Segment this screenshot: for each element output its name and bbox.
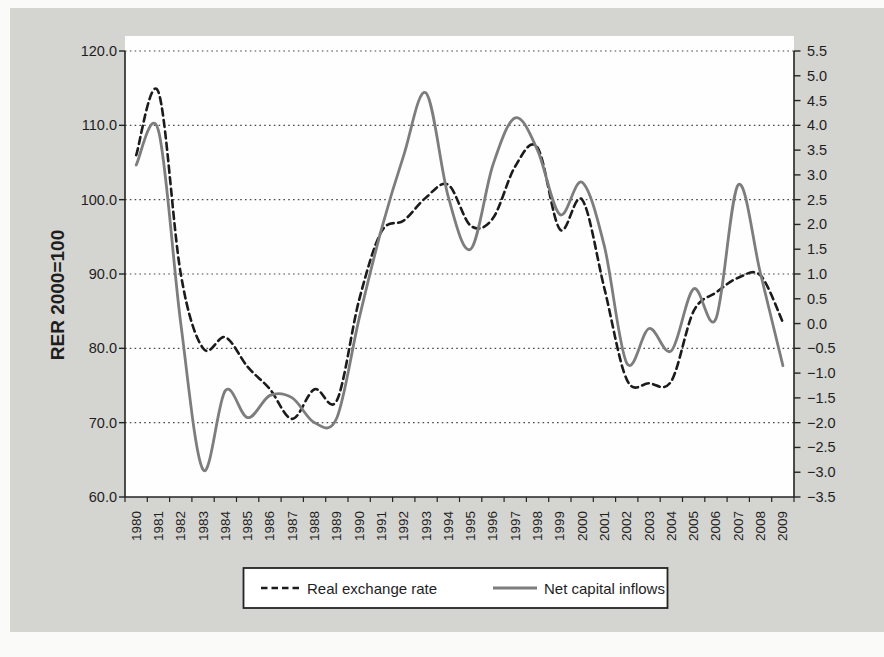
x-axis-tick-label: 2007 — [731, 511, 746, 541]
right-axis-tick-label: 2.0 — [807, 216, 827, 232]
x-axis-tick-label: 1997 — [508, 511, 523, 541]
x-axis-tick-label: 2004 — [664, 510, 679, 541]
x-axis-tick-label: 1986 — [262, 511, 277, 541]
right-axis-tick-label: 5.0 — [807, 68, 827, 84]
left-axis-tick-label: 90.0 — [89, 266, 117, 282]
x-axis-tick-label: 2006 — [708, 511, 723, 541]
x-axis-tick-label: 2009 — [775, 511, 790, 541]
x-axis-tick-label: 1990 — [352, 511, 367, 541]
right-axis-tick-label: −3.0 — [807, 464, 836, 480]
left-axis-title: RER 2000=100 — [47, 230, 68, 360]
right-axis-tick-label: −2.5 — [807, 439, 836, 455]
right-axis-tick-label: 3.5 — [807, 142, 827, 158]
x-axis-tick-label: 1992 — [396, 511, 411, 541]
x-axis-tick-label: 2000 — [575, 511, 590, 541]
x-axis-tick-label: 1983 — [196, 511, 211, 541]
left-axis-tick-label: 110.0 — [82, 117, 117, 133]
right-axis-tick-label: −3.5 — [807, 489, 836, 505]
right-axis-tick-label: −1.0 — [807, 365, 836, 381]
left-axis-tick-label: 70.0 — [89, 415, 117, 431]
x-axis-tick-label: 1988 — [307, 511, 322, 541]
right-axis-tick-label: −1.5 — [807, 390, 836, 406]
x-axis-tick-label: 1993 — [419, 511, 434, 541]
right-axis-tick-label: −0.5 — [807, 340, 836, 356]
x-axis-tick-label: 1987 — [285, 511, 300, 541]
x-axis-tick-label: 1981 — [151, 511, 166, 541]
right-axis-tick-label: 0.5 — [807, 291, 827, 307]
right-axis-tick-label: 0.0 — [807, 316, 827, 332]
right-axis-tick-label: 1.5 — [807, 241, 827, 257]
legend-label-net-capital-inflows: Net capital inflows — [544, 580, 665, 597]
chart-svg: 120.0110.0100.090.080.070.060.05.55.04.5… — [0, 0, 884, 657]
x-axis-tick-label: 2005 — [686, 511, 701, 541]
left-axis-tick-label: 60.0 — [89, 489, 117, 505]
left-axis-tick-label: 120.0 — [81, 43, 117, 59]
chart-figure: 120.0110.0100.090.080.070.060.05.55.04.5… — [0, 0, 884, 657]
left-axis-tick-label: 100.0 — [81, 192, 117, 208]
x-axis-tick-label: 2002 — [619, 511, 634, 541]
plot-area — [125, 36, 794, 497]
legend: Real exchange rate Net capital inflows — [244, 568, 668, 608]
x-axis-tick-label: 1980 — [129, 511, 144, 541]
x-axis-tick-label: 2008 — [753, 511, 768, 541]
right-axis-tick-label: 4.5 — [807, 93, 827, 109]
x-axis-tick-label: 1996 — [485, 511, 500, 541]
x-axis-tick-label: 1985 — [240, 511, 255, 541]
x-axis-tick-label: 1995 — [463, 511, 478, 541]
x-axis-tick-label: 2003 — [642, 511, 657, 541]
legend-label-real-exchange-rate: Real exchange rate — [307, 580, 437, 597]
right-axis-tick-label: 4.0 — [807, 117, 827, 133]
x-axis-tick-label: 1989 — [329, 511, 344, 541]
left-axis-tick-label: 80.0 — [89, 340, 117, 356]
x-axis-tick-label: 1999 — [552, 511, 567, 541]
right-axis-tick-label: 2.5 — [807, 192, 827, 208]
x-axis-tick-label: 1991 — [374, 511, 389, 541]
x-axis-tick-label: 1984 — [218, 510, 233, 541]
x-axis-tick-label: 1982 — [173, 511, 188, 541]
x-axis-tick-label: 2001 — [597, 511, 612, 541]
right-axis-tick-label: 1.0 — [807, 266, 827, 282]
right-axis-tick-label: −2.0 — [807, 415, 836, 431]
x-axis-tick-label: 1994 — [441, 510, 456, 541]
right-axis-tick-label: 5.5 — [807, 43, 827, 59]
x-axis-tick-label: 1998 — [530, 511, 545, 541]
right-axis-tick-label: 3.0 — [807, 167, 827, 183]
